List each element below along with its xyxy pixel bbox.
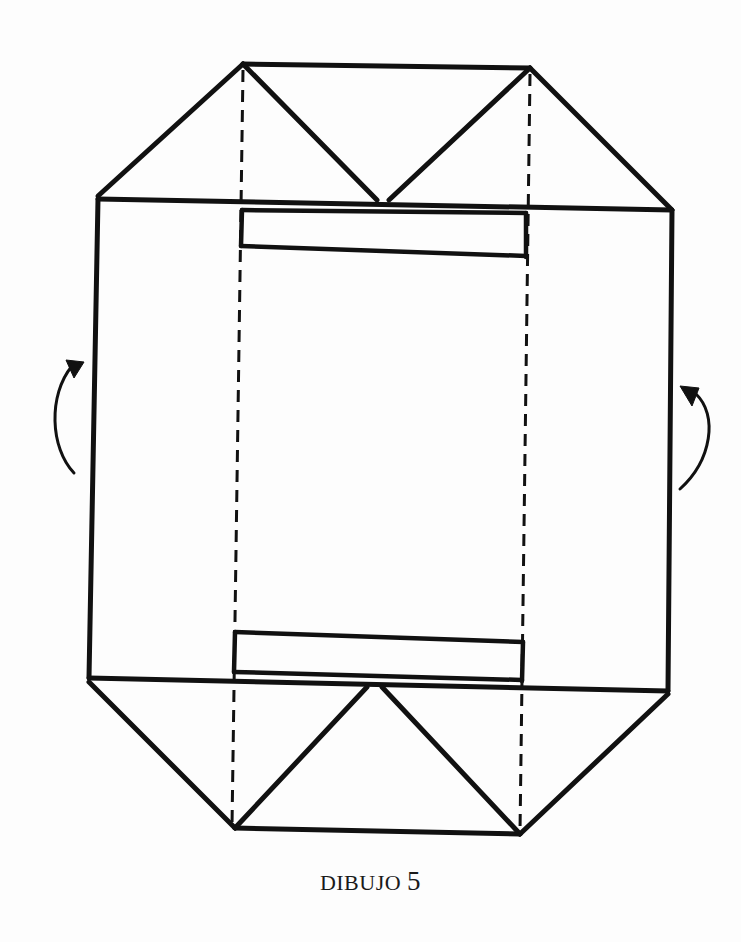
left-fold-line	[232, 70, 243, 826]
bottom-inner-strip	[234, 632, 523, 681]
origami-diagram	[0, 0, 741, 942]
right-fold-arrow-icon	[680, 386, 709, 489]
fold-lines	[232, 70, 530, 832]
figure-caption: DIBUJO 5	[0, 866, 741, 897]
main-rectangle	[89, 199, 672, 691]
caption-word: DIBUJO	[320, 870, 401, 895]
top-flaps	[98, 64, 672, 210]
left-fold-arrow-icon	[55, 360, 84, 473]
right-fold-line	[520, 74, 530, 832]
top-inner-strip	[241, 210, 526, 257]
caption-number: 5	[407, 866, 421, 896]
bottom-flaps	[89, 682, 668, 834]
